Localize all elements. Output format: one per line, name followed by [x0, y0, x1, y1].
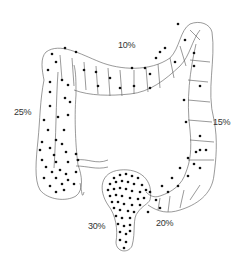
colon-diagram: 10% 25% 15% 20% 30% — [0, 0, 242, 260]
label-rectum: 30% — [88, 221, 105, 231]
sigmoid-colon-outline — [148, 175, 214, 212]
rectum-outline — [102, 170, 151, 251]
descending-colon-outline — [211, 32, 217, 175]
colon-illustration — [0, 0, 242, 260]
colon-outline — [36, 22, 216, 251]
rectum-dense-dots — [107, 173, 148, 250]
label-descending-colon: 15% — [213, 117, 230, 127]
colon-dots — [39, 23, 208, 214]
label-transverse-colon: 10% — [118, 40, 135, 50]
label-sigmoid-colon: 20% — [156, 218, 173, 228]
ascending-colon-outline — [36, 52, 82, 199]
label-ascending-colon: 25% — [14, 107, 31, 117]
